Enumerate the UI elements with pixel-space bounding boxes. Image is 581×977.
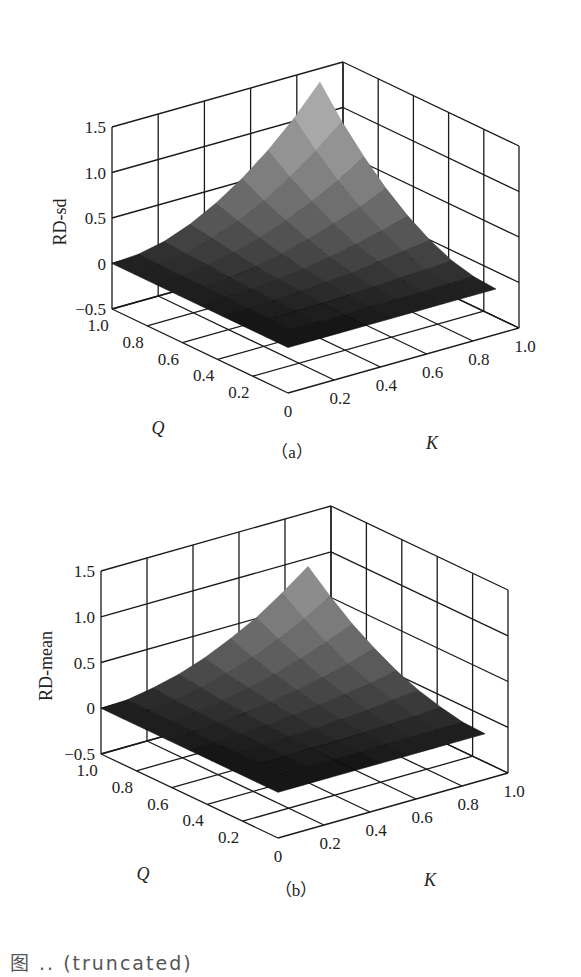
k-tick-label: 0.4 [376, 376, 398, 395]
z-tick-label: 1.0 [74, 608, 95, 627]
q-tick-label: 0.2 [218, 828, 239, 847]
chart-b-caption: （b） [275, 881, 318, 900]
z-tick-label: 0.5 [74, 654, 95, 673]
z-tick-label: 0 [87, 699, 96, 718]
q-tick-label: 1.0 [87, 316, 108, 335]
z-tick-label: 0 [98, 255, 107, 274]
chart-a-caption: （a） [271, 443, 313, 462]
chart-a-klabel: K [425, 433, 439, 453]
wall-k1-hline [331, 552, 508, 636]
q-tick-label: 0.8 [123, 333, 144, 352]
q-tick-label: 0.6 [147, 795, 168, 814]
chart-b-zlabel: RD-mean [36, 631, 56, 701]
q-tick-label: 0.6 [158, 350, 179, 369]
k-tick-label: 1.0 [514, 337, 535, 356]
k-tick-label: 0.6 [411, 808, 432, 827]
chart-a: −0.500.51.01.50.20.40.60.81.00.20.40.60.… [50, 62, 536, 462]
wall-k1-hline [343, 62, 519, 146]
z-tick-label: 1.0 [85, 164, 106, 183]
chart-a-qlabel: Q [152, 418, 165, 438]
q-tick-label: 0.8 [112, 778, 133, 797]
k-tick-label: 0.8 [457, 795, 478, 814]
chart-b-qlabel: Q [137, 864, 150, 884]
k-tick-label: 0.6 [422, 363, 443, 382]
chart-a-surface [112, 82, 496, 347]
z-tick-label: 1.5 [74, 562, 95, 581]
k-tick-label: 0.2 [330, 389, 351, 408]
q-tick-label: 1.0 [76, 761, 97, 780]
q-tick-label: 0.2 [228, 383, 249, 402]
k-tick-label: 0.2 [319, 834, 340, 853]
q-tick-label: 0.4 [183, 811, 205, 830]
chart-b-klabel: K [423, 870, 437, 890]
origin-tick-label: 0 [284, 402, 293, 421]
z-tick-label: 0.5 [85, 209, 106, 228]
k-tick-label: 1.0 [503, 782, 524, 801]
figure-caption-truncated: 图 .. (truncated) [10, 948, 581, 977]
k-tick-label: 0.8 [468, 350, 489, 369]
z-tick-label: 1.5 [85, 118, 106, 137]
q-tick-label: 0.4 [193, 366, 215, 385]
k-tick-label: 0.4 [365, 821, 387, 840]
chart-a-zlabel: RD-sd [50, 198, 70, 245]
wall-k1-hline [331, 506, 508, 590]
origin-tick-label: 0 [274, 847, 283, 866]
chart-b: −0.500.51.01.50.20.40.60.81.00.20.40.60.… [36, 506, 525, 900]
